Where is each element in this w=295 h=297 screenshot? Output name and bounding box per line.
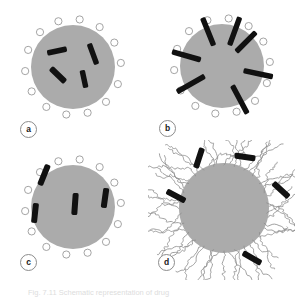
polymer-chain — [253, 240, 279, 257]
receptor-circle — [260, 38, 267, 45]
receptor-circle — [185, 28, 192, 35]
receptor-circle — [84, 249, 91, 256]
receptor-circle — [245, 22, 252, 29]
panel-a-graphic — [0, 0, 148, 140]
polymer-chain — [158, 165, 196, 176]
receptor-circle — [76, 16, 83, 23]
polymer-chain — [159, 154, 186, 190]
receptor-circle — [96, 23, 103, 30]
receptor-circle — [96, 163, 103, 170]
receptor-circle — [192, 102, 199, 109]
receptor-circle — [102, 238, 109, 245]
polymer-chain — [224, 140, 254, 165]
receptor-circle — [251, 97, 258, 104]
receptor-circle — [36, 29, 43, 36]
receptor-circle — [55, 18, 62, 25]
polymer-chain — [148, 213, 184, 225]
receptor-circle — [114, 80, 121, 87]
polymer-chain — [169, 149, 200, 175]
particle-core — [179, 163, 269, 253]
polymer-chain — [199, 248, 212, 280]
panel-d-label: d — [158, 254, 175, 271]
receptor-circle — [28, 228, 35, 235]
receptor-circle — [43, 103, 50, 110]
receptor-circle — [84, 109, 91, 116]
receptor-circle — [76, 156, 83, 163]
polymer-chain — [222, 251, 229, 280]
polymer-chain — [255, 144, 271, 180]
receptor-circle — [263, 79, 270, 86]
receptor-circle — [225, 15, 232, 22]
polymer-chain — [204, 140, 218, 167]
polymer-chain — [203, 140, 215, 166]
receptor-circle — [233, 108, 240, 115]
receptor-circle — [22, 67, 29, 74]
receptor-circle — [111, 179, 118, 186]
panel-c: c — [0, 140, 148, 280]
drug-rod — [193, 147, 205, 169]
polymer-chain — [185, 243, 201, 280]
receptor-circle — [55, 158, 62, 165]
receptor-circle — [43, 243, 50, 250]
receptor-circle — [171, 66, 178, 73]
receptor-circle — [117, 59, 124, 66]
panel-b-label: b — [159, 120, 176, 137]
polymer-chain — [253, 144, 284, 176]
polymer-chain — [259, 233, 275, 270]
receptor-circle — [102, 98, 109, 105]
receptor-circle — [114, 220, 121, 227]
panel-d: d — [148, 140, 295, 280]
receptor-circle — [111, 39, 118, 46]
panel-b: b — [148, 0, 295, 140]
figure-root: a b c d Fig. 7.11 Schematic representati… — [0, 0, 295, 297]
polymer-chain — [234, 250, 243, 280]
receptor-circle — [212, 110, 219, 117]
receptor-circle — [25, 186, 32, 193]
receptor-circle — [117, 199, 124, 206]
receptor-circle — [63, 111, 70, 118]
receptor-circle — [28, 88, 35, 95]
drug-rod — [241, 250, 262, 266]
receptor-circle — [22, 207, 29, 214]
receptor-circle — [266, 58, 273, 65]
receptor-circle — [25, 46, 32, 53]
figure-caption: Fig. 7.11 Schematic representation of dr… — [28, 288, 268, 297]
panel-c-label: c — [20, 254, 37, 271]
panel-b-graphic — [148, 0, 295, 140]
panel-a: a — [0, 0, 148, 140]
receptor-circle — [63, 251, 70, 258]
panel-a-label: a — [20, 121, 37, 138]
polymer-chain — [203, 250, 220, 280]
particle-core — [31, 25, 115, 109]
